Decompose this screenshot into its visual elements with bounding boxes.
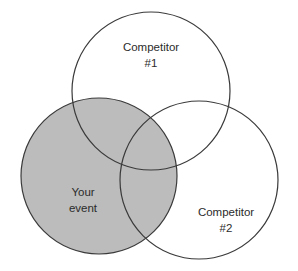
venn-label-competitor-2: Competitor #2	[198, 206, 254, 234]
venn-label-competitor-2-line2: #2	[220, 222, 233, 234]
venn-diagram-canvas: Competitor #1 Competitor #2 Your event	[0, 0, 298, 271]
venn-circle-your-event[interactable]	[21, 98, 177, 254]
venn-label-your-event-line1: Your	[71, 186, 94, 198]
venn-label-competitor-2-line1: Competitor	[198, 206, 254, 218]
venn-label-competitor-1-line2: #1	[145, 57, 158, 69]
venn-diagram: Competitor #1 Competitor #2 Your event	[0, 0, 298, 271]
venn-label-competitor-1-line1: Competitor	[123, 41, 179, 53]
venn-label-your-event-line2: event	[69, 202, 98, 214]
venn-label-competitor-1: Competitor #1	[123, 41, 179, 69]
